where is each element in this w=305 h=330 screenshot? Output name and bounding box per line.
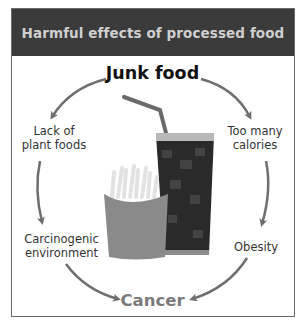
junk-food-illustration xyxy=(104,97,214,260)
node-too-many-calories: Too many calories xyxy=(220,124,290,152)
junk-food-label: Junk food xyxy=(0,63,305,83)
fries-box xyxy=(104,194,168,260)
node-obesity: Obesity xyxy=(226,240,286,254)
node-line: plant foods xyxy=(14,138,94,152)
node-line: Obesity xyxy=(226,240,286,254)
node-line: Lack of xyxy=(14,124,94,138)
node-line: environment xyxy=(14,246,109,260)
arrow-junk-to-lack xyxy=(52,79,106,117)
cycle-arrows xyxy=(0,0,305,330)
arrow-junk-to-calories xyxy=(201,79,250,117)
node-carcinogenic-environment: Carcinogenic environment xyxy=(14,232,109,260)
arrow-lack-to-carcinogenic xyxy=(37,161,42,222)
arrow-calories-to-obesity xyxy=(262,161,268,224)
node-line: Carcinogenic xyxy=(14,232,109,246)
node-lack-of-plant-foods: Lack of plant foods xyxy=(14,124,94,152)
node-line: Too many xyxy=(220,124,290,138)
cancer-label: Cancer xyxy=(0,291,305,310)
straw xyxy=(124,97,166,133)
node-line: calories xyxy=(220,138,290,152)
